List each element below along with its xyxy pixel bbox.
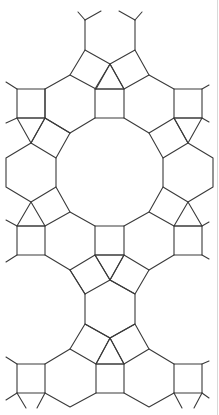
tile-edge (6, 357, 17, 364)
square-tile (17, 89, 45, 118)
square-tile (110, 255, 149, 294)
square-tile (110, 324, 149, 364)
tile-edge (135, 12, 142, 20)
tile-edge (202, 85, 209, 89)
tile-edge (202, 118, 209, 122)
square-tile (110, 50, 149, 89)
tile-edge (6, 118, 17, 123)
tile-edge (202, 255, 209, 259)
tile-edge (85, 280, 135, 338)
square-tile (174, 89, 202, 118)
square-tile (31, 118, 70, 158)
tile-edge (6, 393, 17, 400)
tile-edge (163, 143, 213, 202)
tile-edge (45, 118, 70, 133)
tile-edge (174, 393, 182, 408)
tile-edge (124, 393, 174, 407)
tile-edge (124, 187, 163, 226)
square-tile (70, 324, 110, 364)
tile-edge (70, 270, 85, 294)
square-tile (95, 89, 124, 118)
tile-edge (149, 212, 174, 226)
triangle-tile (174, 202, 202, 226)
tile-edge (194, 393, 202, 408)
tile-edge (202, 393, 209, 398)
triangle-tile (17, 202, 45, 226)
triangle-tile (95, 64, 124, 89)
square-tile (17, 226, 45, 255)
tile-edge (78, 12, 85, 20)
square-tile (70, 255, 110, 294)
tile-edge (17, 393, 26, 408)
tile-edge (6, 255, 17, 262)
square-tile (95, 226, 124, 255)
square-tile (70, 50, 110, 89)
square-tile (96, 364, 124, 393)
triangle-tile (174, 118, 202, 143)
tile-edge (124, 118, 149, 133)
tile-edge (6, 143, 56, 202)
tile-edge (45, 349, 70, 364)
tile-edge (149, 255, 174, 270)
tile-edge (149, 75, 174, 89)
tile-edge (45, 212, 70, 226)
square-tile (174, 364, 202, 393)
square-tile (174, 226, 202, 255)
triangle-tile (95, 255, 124, 280)
triangle-tile (17, 118, 45, 143)
tile-edge (149, 349, 174, 364)
tile-edge (202, 222, 209, 226)
tile-edge (45, 75, 70, 89)
triangle-tile (96, 338, 124, 364)
tile-edge (6, 82, 17, 89)
tile-edge (45, 255, 70, 270)
tile-edge (37, 393, 45, 408)
tile-edge (119, 11, 135, 20)
tile-edge (45, 393, 96, 407)
tile-edge (85, 11, 101, 20)
tiling-diagram (0, 0, 219, 415)
tile-edge (202, 361, 209, 364)
tile-edge (6, 220, 17, 226)
square-tile (149, 118, 188, 158)
tile-edge (70, 118, 95, 133)
connecting-edges (6, 11, 213, 408)
square-tile (17, 364, 45, 393)
tile-edge (56, 187, 95, 226)
